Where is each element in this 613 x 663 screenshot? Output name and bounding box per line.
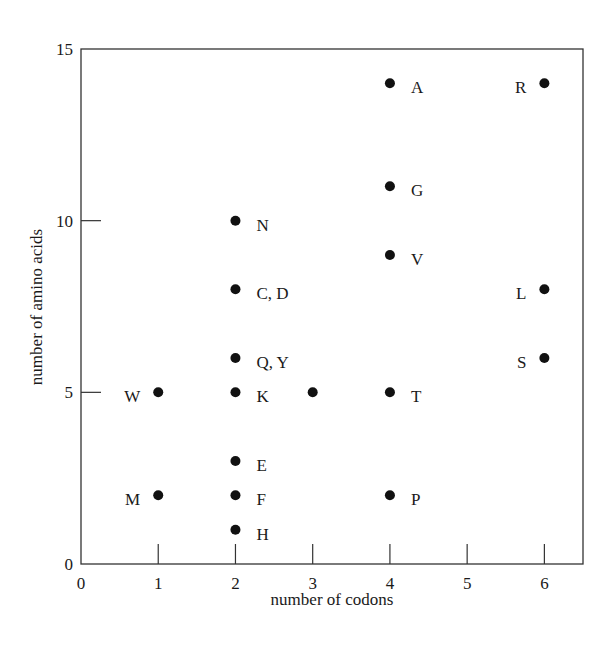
point-label: K bbox=[256, 387, 269, 406]
data-point: W bbox=[124, 387, 163, 406]
y-tick-label: 15 bbox=[56, 40, 73, 59]
point-marker bbox=[385, 490, 395, 500]
point-label: G bbox=[411, 181, 423, 200]
point-label: S bbox=[517, 353, 526, 372]
point-marker bbox=[539, 353, 549, 363]
data-point: A bbox=[385, 78, 424, 97]
data-point: Q, Y bbox=[230, 353, 288, 372]
point-label: P bbox=[411, 490, 420, 509]
data-point: R bbox=[515, 78, 549, 97]
point-label: N bbox=[256, 216, 268, 235]
x-axis-ticks: 0123456 bbox=[77, 544, 549, 593]
point-label: T bbox=[411, 387, 422, 406]
point-marker bbox=[230, 490, 240, 500]
point-marker bbox=[230, 216, 240, 226]
point-label: V bbox=[411, 250, 424, 269]
point-label: H bbox=[256, 525, 268, 544]
data-point: G bbox=[385, 181, 423, 200]
data-point: M bbox=[125, 490, 163, 509]
data-point: S bbox=[517, 353, 549, 372]
point-marker bbox=[230, 525, 240, 535]
data-point: K bbox=[230, 387, 269, 406]
data-point: E bbox=[230, 456, 266, 475]
point-label: L bbox=[516, 284, 526, 303]
point-label: W bbox=[124, 387, 141, 406]
scatter-chart: 0123456 051015 ARGNVC, DLQ, YSWKTEMFPH n… bbox=[0, 0, 613, 663]
y-tick-label: 10 bbox=[56, 212, 73, 231]
point-label: M bbox=[125, 490, 140, 509]
point-marker bbox=[385, 181, 395, 191]
point-label: A bbox=[411, 78, 424, 97]
point-marker bbox=[385, 78, 395, 88]
data-point bbox=[308, 387, 318, 397]
point-marker bbox=[230, 387, 240, 397]
data-point: P bbox=[385, 490, 420, 509]
point-marker bbox=[539, 78, 549, 88]
x-tick-label: 2 bbox=[231, 574, 240, 593]
data-point: T bbox=[385, 387, 422, 406]
data-point: N bbox=[230, 216, 268, 235]
data-point: C, D bbox=[230, 284, 288, 303]
point-label: Q, Y bbox=[256, 353, 288, 372]
point-marker bbox=[539, 284, 549, 294]
plot-frame bbox=[81, 49, 583, 564]
data-point: F bbox=[230, 490, 265, 509]
y-tick-label: 0 bbox=[65, 555, 74, 574]
point-marker bbox=[153, 490, 163, 500]
x-tick-label: 6 bbox=[540, 574, 549, 593]
point-label: E bbox=[256, 456, 266, 475]
point-label: C, D bbox=[256, 284, 288, 303]
point-marker bbox=[385, 387, 395, 397]
point-label: F bbox=[256, 490, 265, 509]
point-marker bbox=[153, 387, 163, 397]
y-tick-label: 5 bbox=[65, 383, 74, 402]
point-label: R bbox=[515, 78, 527, 97]
point-marker bbox=[230, 284, 240, 294]
x-tick-label: 1 bbox=[154, 574, 163, 593]
y-axis-label: number of amino acids bbox=[27, 229, 46, 385]
y-axis-ticks: 051015 bbox=[56, 40, 101, 574]
x-axis-label: number of codons bbox=[271, 590, 394, 609]
point-marker bbox=[230, 353, 240, 363]
point-marker bbox=[308, 387, 318, 397]
data-point: L bbox=[516, 284, 549, 303]
data-point: V bbox=[385, 250, 424, 269]
x-tick-label: 5 bbox=[463, 574, 472, 593]
point-marker bbox=[230, 456, 240, 466]
data-point: H bbox=[230, 525, 268, 544]
data-points: ARGNVC, DLQ, YSWKTEMFPH bbox=[124, 78, 549, 543]
point-marker bbox=[385, 250, 395, 260]
x-tick-label: 0 bbox=[77, 574, 86, 593]
